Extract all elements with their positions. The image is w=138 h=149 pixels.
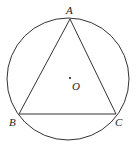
label-o: O (72, 80, 80, 92)
triangle-abc (19, 19, 116, 114)
geometry-diagram: A B C O (0, 0, 138, 149)
circumcircle (7, 18, 129, 140)
label-a: A (65, 4, 73, 16)
label-c: C (115, 116, 123, 128)
center-point-o (69, 77, 71, 79)
label-b: B (9, 116, 16, 128)
